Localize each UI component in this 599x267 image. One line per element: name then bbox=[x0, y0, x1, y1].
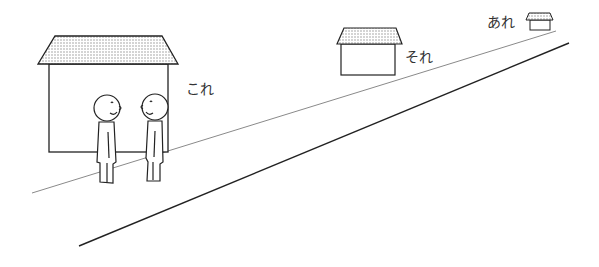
far-house-wall bbox=[530, 20, 550, 30]
label-sore: それ bbox=[405, 46, 433, 66]
far-house bbox=[526, 13, 553, 30]
person-right-head bbox=[142, 94, 168, 120]
middle-house-roof bbox=[337, 28, 402, 44]
near-house-roof bbox=[38, 36, 178, 64]
middle-house-wall bbox=[341, 44, 395, 75]
far-house-roof bbox=[526, 13, 553, 20]
label-are: あれ bbox=[487, 11, 515, 31]
person-left-head bbox=[94, 95, 120, 121]
label-kore: これ bbox=[186, 78, 214, 98]
middle-house bbox=[337, 28, 402, 75]
illustration-scene bbox=[0, 0, 599, 267]
